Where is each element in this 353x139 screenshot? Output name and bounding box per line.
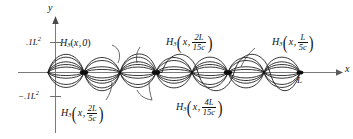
leader-line-t4L15c <box>149 81 152 100</box>
y-tick-negative-value: −.1L <box>18 91 36 101</box>
paren-close-t2L15c: ) <box>207 36 212 50</box>
harmonic-wave-figure: y x .1L2 −.1L2 L H3(x,0) H3(x,2L15c) H3(… <box>0 0 353 139</box>
x-axis-label: x <box>345 64 349 74</box>
fraction-tL5c: L5c <box>298 33 308 52</box>
node-dot-1 <box>152 70 160 75</box>
paren-open-t2L5c: ( <box>72 107 77 121</box>
comma-t2L15c: , <box>187 37 191 47</box>
fraction-denominator-t2L5c: 5c <box>87 113 97 123</box>
leader-line-t2L15c <box>136 47 140 63</box>
fraction-denominator-tL5c: 5c <box>298 42 308 52</box>
curve-label-tL5c: H3(x,L5c) <box>272 33 315 52</box>
node-dot-3 <box>297 71 304 75</box>
fraction-t2L15c: 2L15c <box>192 33 206 52</box>
curve-label-t2L15c: H3(x,2L15c) <box>166 33 213 52</box>
curve-label-t0: H3(x,0) <box>60 38 91 48</box>
fraction-numerator-tL5c: L <box>299 33 306 42</box>
paren-open-t2L15c: ( <box>177 36 182 50</box>
y-tick-negative-exponent: 2 <box>36 89 39 96</box>
paren-open-t4L15c: ( <box>187 101 192 115</box>
plot-canvas <box>0 0 353 139</box>
curve-label-t2L5c: H3(x,2L5c) <box>61 104 105 123</box>
x-mark-label-L: L <box>297 76 302 85</box>
fraction-denominator-t2L15c: 15c <box>192 42 206 52</box>
paren-open-tL5c: ( <box>283 36 288 50</box>
y-tick-positive-value: .1L <box>26 37 38 47</box>
fraction-t4L15c: 4L15c <box>202 98 216 117</box>
node-dot-2 <box>224 70 232 75</box>
fraction-denominator-t4L15c: 15c <box>202 107 216 117</box>
fraction-t2L5c: 2L5c <box>87 104 98 123</box>
comma-t4L15c: , <box>197 102 201 112</box>
fraction-numerator-t4L15c: 4L <box>203 98 214 107</box>
comma-t2L5c: , <box>82 108 86 118</box>
paren-close-t2L5c: ) <box>99 107 104 121</box>
y-tick-label-negative: −.1L2 <box>18 90 39 101</box>
fraction-numerator-t2L5c: 2L <box>87 104 98 113</box>
paren-close-tL5c: ) <box>309 36 314 50</box>
paren-close-t0: ) <box>87 38 90 48</box>
comma-tL5c: , <box>293 37 297 47</box>
y-tick-positive-exponent: 2 <box>38 35 41 42</box>
curve-label-t4L15c: H3(x,4L15c) <box>176 98 223 117</box>
fraction-numerator-t2L15c: 2L <box>193 33 204 42</box>
y-tick-label-positive: .1L2 <box>26 36 41 47</box>
y-axis-label: y <box>48 3 52 13</box>
leader-line-t0 <box>112 45 120 63</box>
node-dot-0 <box>80 70 88 75</box>
paren-close-t4L15c: ) <box>217 101 222 115</box>
paren-open-t0: ( <box>70 38 73 48</box>
